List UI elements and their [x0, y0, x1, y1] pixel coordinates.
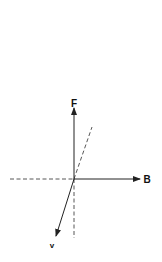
- velocity-label: v: [50, 241, 55, 250]
- magnetic-field-label: B: [143, 174, 150, 185]
- diagonal-dashed-guide: [74, 127, 92, 179]
- velocity-vector-arrow: [56, 179, 74, 236]
- force-label: F: [71, 98, 77, 109]
- force-field-velocity-diagram: F B v: [0, 0, 162, 262]
